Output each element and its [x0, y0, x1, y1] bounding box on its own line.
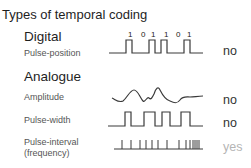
signal-waveforms — [0, 0, 251, 168]
pulse-interval-ticks — [122, 140, 199, 149]
amplitude-wave — [112, 88, 203, 103]
pulse-width-signal — [108, 112, 203, 126]
pulse-position-signal — [109, 40, 203, 53]
